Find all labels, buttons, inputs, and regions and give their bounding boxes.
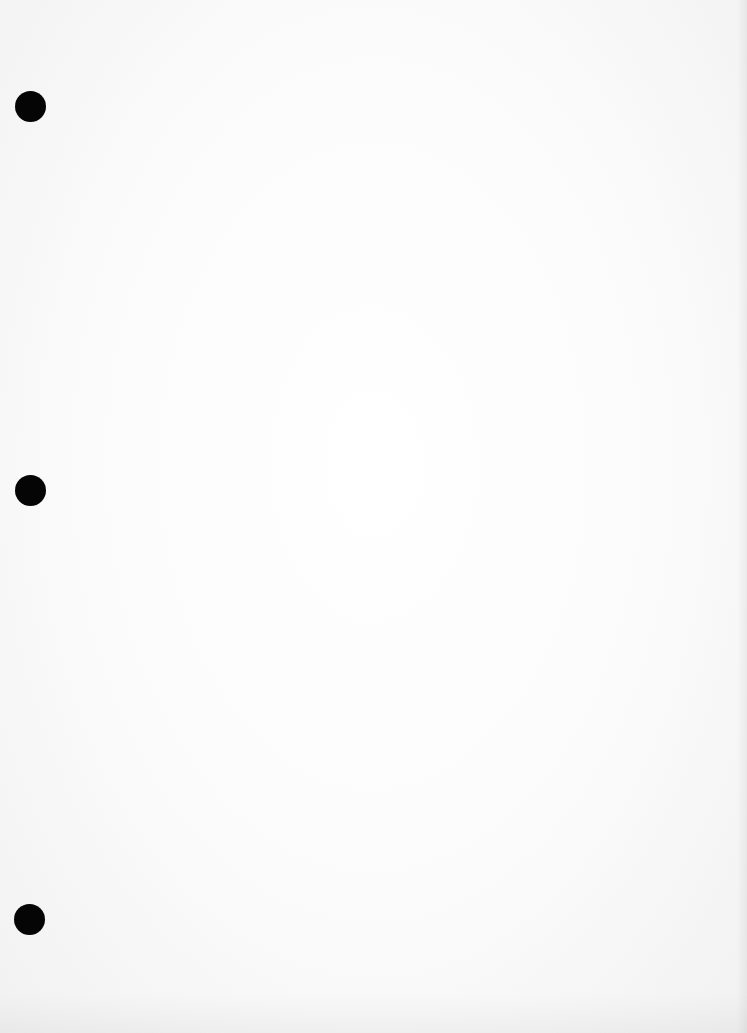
punch-hole-middle [15, 475, 46, 506]
blank-document-page [0, 0, 747, 1033]
punch-hole-bottom [14, 904, 45, 935]
punch-hole-top [15, 91, 46, 122]
